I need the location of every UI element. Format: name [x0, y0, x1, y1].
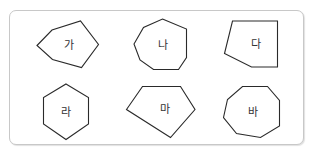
- polygon-figure: 가 나 다 라 마 바: [0, 0, 315, 155]
- shape-ma: 마: [127, 87, 196, 138]
- shape-ga: 가: [37, 21, 99, 68]
- shape-da: 다: [225, 21, 278, 67]
- shape-label: 다: [251, 38, 261, 51]
- shape-ba: 바: [224, 87, 280, 138]
- shape-label: 마: [160, 103, 170, 116]
- shape-ra: 라: [44, 84, 89, 140]
- shape-na: 나: [134, 19, 187, 70]
- shape-label: 나: [158, 39, 168, 52]
- shape-label: 라: [61, 106, 71, 119]
- shape-label: 가: [64, 39, 74, 52]
- shape-label: 바: [248, 106, 258, 119]
